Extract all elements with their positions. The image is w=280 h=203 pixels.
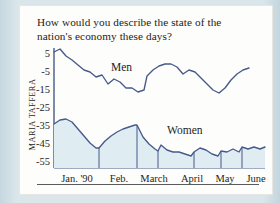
y-tick-label: -15 (36, 84, 50, 95)
x-tick-label: Feb. (110, 173, 128, 184)
women-series-label: Women (167, 124, 203, 136)
y-tick-label: -45 (36, 138, 50, 149)
economy-line-chart: 5 -5 -15 -25 -35 -45 -55 (20, 46, 272, 186)
x-tick-label: April (181, 173, 203, 184)
y-axis-tick-labels: 5 -5 -15 -25 -35 -45 -55 (36, 48, 50, 167)
y-tick-label: -35 (36, 120, 50, 131)
x-tick-label: May (215, 173, 235, 184)
x-tick-label: March (140, 173, 168, 184)
men-series-line (54, 49, 249, 93)
chart-title: How would you describe the state of the … (37, 15, 259, 43)
figure-page: How would you describe the state of the … (0, 0, 280, 203)
men-series-label: Men (111, 61, 132, 73)
bottom-rule (37, 184, 259, 185)
y-tick-label: -5 (41, 66, 50, 77)
y-tick-label: -25 (36, 102, 50, 113)
y-tick-label: -55 (36, 156, 50, 167)
x-axis-tick-labels: Jan. '90 Feb. March April May June (61, 173, 266, 184)
chart-area: 5 -5 -15 -25 -35 -45 -55 (20, 46, 272, 186)
x-tick-label: June (246, 173, 266, 184)
figure-panel: How would you describe the state of the … (20, 6, 272, 194)
x-tick-label: Jan. '90 (61, 173, 93, 184)
y-tick-label: 5 (45, 48, 50, 59)
women-area-fill (54, 119, 265, 168)
